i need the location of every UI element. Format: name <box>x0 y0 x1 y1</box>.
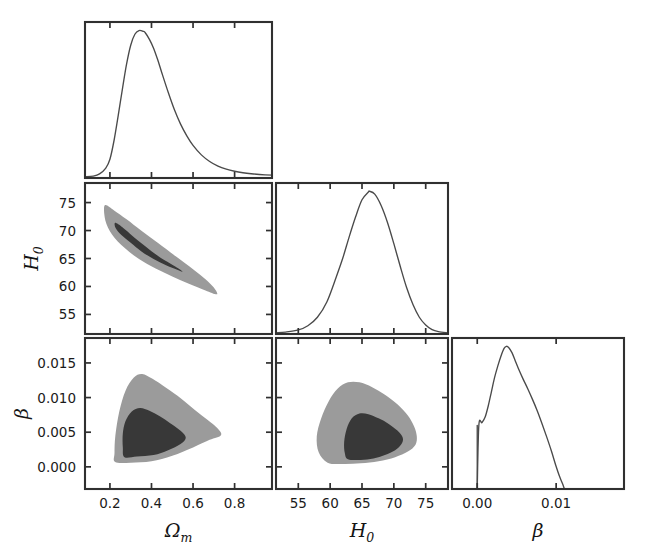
corner-plot-svg: 55606570750.20.40.60.80.0000.0050.0100.0… <box>0 0 648 558</box>
xticklabel-beta-vs-h0: 70 <box>385 495 402 511</box>
yticklabel-beta-vs-omega_m: 0.000 <box>37 459 76 475</box>
yaxis-label-beta-vs-omega_m-text: β <box>10 408 32 420</box>
xticklabel-beta-vs-omega_m: 0.2 <box>99 495 120 511</box>
xticklabel-beta-vs-omega_m: 0.4 <box>141 495 162 511</box>
yticklabel-h0-vs-omega_m: 60 <box>59 278 76 294</box>
yticklabel-beta-vs-omega_m: 0.005 <box>37 424 76 440</box>
xticklabel-beta-vs-h0: 75 <box>417 495 434 511</box>
yticklabel-beta-vs-omega_m: 0.010 <box>37 390 76 406</box>
xticklabel-beta-marginal: 0.00 <box>462 495 492 511</box>
xticklabel-beta-vs-h0: 65 <box>353 495 370 511</box>
yticklabel-h0-vs-omega_m: 75 <box>59 195 76 211</box>
yticklabel-h0-vs-omega_m: 70 <box>59 223 76 239</box>
yticklabel-h0-vs-omega_m: 55 <box>59 306 76 322</box>
yticklabel-beta-vs-omega_m: 0.015 <box>37 355 76 371</box>
yaxis-label-beta-vs-omega_m: β <box>10 408 32 420</box>
xticklabel-beta-vs-h0: 55 <box>290 495 307 511</box>
xaxis-label-beta-marginal-text: β <box>532 519 544 541</box>
xticklabel-beta-marginal: 0.01 <box>541 495 571 511</box>
corner-plot-figure: 55606570750.20.40.60.80.0000.0050.0100.0… <box>0 0 648 558</box>
xticklabel-beta-vs-omega_m: 0.8 <box>224 495 245 511</box>
yticklabel-h0-vs-omega_m: 65 <box>59 251 76 267</box>
xaxis-label-beta-marginal: β <box>532 519 544 541</box>
xticklabel-beta-vs-h0: 60 <box>322 495 339 511</box>
xticklabel-beta-vs-omega_m: 0.6 <box>182 495 203 511</box>
figure-background <box>0 0 648 558</box>
